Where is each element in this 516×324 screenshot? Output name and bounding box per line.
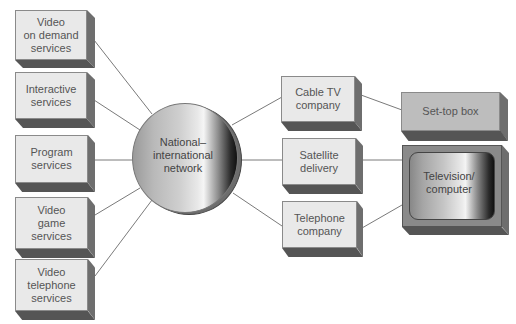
node-label: Satellite delivery	[299, 149, 338, 175]
edge-hub-cable	[232, 97, 282, 125]
node-label: Set-top box	[422, 105, 478, 118]
node-label: Video on demand services	[23, 16, 78, 55]
node-label: Telephone company	[294, 212, 345, 238]
node-video-on-demand: Video on demand services	[15, 10, 95, 68]
node-set-top-box: Set-top box	[401, 92, 508, 141]
node-telephone-company: Telephone company	[282, 201, 363, 257]
node-program-services: Program services	[15, 135, 95, 192]
node-label: Television/ computer	[423, 170, 474, 196]
edge-hub-telco	[233, 193, 282, 226]
node-video-telephone-services: Video telephone services	[15, 259, 95, 320]
edge-vod-hub	[94, 40, 152, 114]
hub-disk: National– international network	[132, 103, 238, 213]
edge-game-hub	[95, 188, 140, 215]
node-cable-tv-company: Cable TV company	[281, 76, 362, 131]
edge-interactive-hub	[94, 100, 140, 130]
edge-telephone-services-hub	[95, 200, 152, 276]
edge-telco-tv	[362, 205, 402, 228]
network-diagram: Video on demand services Interactive ser…	[0, 0, 516, 324]
node-satellite-delivery: Satellite delivery	[282, 138, 363, 194]
node-label: Video game services	[31, 204, 71, 243]
node-label: Program services	[30, 146, 72, 172]
node-video-game-services: Video game services	[15, 197, 95, 258]
hub-label: National– international network	[153, 136, 213, 175]
node-label: Cable TV company	[295, 86, 341, 112]
node-national-international-network: National– international network	[132, 103, 244, 217]
node-label: Interactive services	[26, 83, 77, 109]
node-label: Video telephone services	[27, 266, 75, 305]
tv-screen: Television/ computer	[409, 152, 495, 220]
edge-cable-settop	[361, 95, 402, 110]
node-interactive-services: Interactive services	[15, 72, 95, 128]
node-television-computer: Television/ computer	[402, 145, 509, 235]
